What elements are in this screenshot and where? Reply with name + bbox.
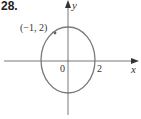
x-intercept-label: 2	[97, 64, 102, 74]
x-axis-label: x	[131, 64, 136, 75]
point-label: (−1, 2)	[20, 23, 47, 33]
ellipse-graph	[0, 0, 141, 119]
y-axis-label: y	[72, 0, 77, 11]
problem-number: 28.	[1, 0, 18, 12]
ellipse-figure: 28. y (−1, 2) 0 2 x	[0, 0, 141, 119]
marked-point	[54, 32, 57, 35]
y-axis-arrow-icon	[65, 0, 71, 8]
origin-label: 0	[60, 64, 65, 74]
